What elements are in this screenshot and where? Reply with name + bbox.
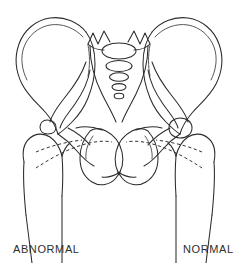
right-obturator-foramen: [115, 129, 158, 185]
left-arcuate-line: [50, 62, 90, 128]
left-femur-abnormal: [23, 120, 70, 263]
sacral-body-3: [110, 73, 129, 81]
right-femoral-shaft-lateral: [206, 215, 212, 263]
right-acetabulum: [144, 128, 180, 166]
left-obturator-foramen: [80, 129, 123, 185]
right-iliac-wing: [143, 18, 222, 134]
left-shenton-line-broken: [36, 141, 112, 168]
right-shenton-line-continuous: [126, 141, 202, 168]
left-shenton-line-segment: [36, 140, 82, 152]
left-femoral-head-ossific-nucleus: [40, 120, 56, 134]
sacral-body-4: [112, 84, 126, 91]
sacrum: [88, 31, 150, 122]
right-shenton-line-segment: [156, 140, 202, 152]
left-femoral-shaft-lateral: [26, 215, 32, 263]
right-femur-normal: [168, 118, 215, 263]
sacral-body-1: [102, 43, 136, 59]
pelvis-illustration: [0, 0, 238, 263]
sacral-body-5: [114, 93, 124, 99]
label-abnormal: ABNORMAL: [13, 243, 80, 255]
sacral-body-2: [106, 61, 132, 72]
pelvis-figure: ABNORMAL NORMAL: [0, 0, 238, 263]
left-acetabulum: [58, 128, 94, 166]
left-iliac-wing: [16, 18, 95, 134]
label-normal: NORMAL: [183, 243, 234, 255]
